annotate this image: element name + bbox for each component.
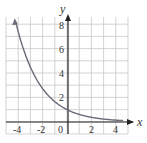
y-axis-label: y: [59, 2, 66, 16]
x-tick-label: 2: [89, 124, 94, 135]
x-axis-label: x: [136, 115, 143, 129]
y-tick-label: 4: [59, 68, 64, 79]
y-tick-label: 6: [59, 44, 64, 55]
y-tick-label: 2: [59, 92, 64, 103]
x-tick-label: 0: [58, 124, 63, 135]
x-tick-label: -2: [37, 124, 45, 135]
x-tick-labels: -4 -2 0 2 4: [13, 124, 118, 135]
y-tick-labels: 2 4 6 8: [59, 20, 64, 103]
axes: [6, 14, 134, 134]
x-tick-label: -4: [13, 124, 21, 135]
curve-arrow-icon: [12, 18, 18, 25]
curve: [16, 22, 123, 120]
grid: [6, 17, 128, 134]
x-axis-arrow-icon: [127, 119, 134, 125]
y-axis-arrow-icon: [65, 14, 71, 21]
y-tick-label: 8: [59, 20, 64, 31]
chart: x y -4 -2 0 2 4 2 4 6 8: [0, 0, 147, 143]
x-tick-label: 4: [113, 124, 118, 135]
